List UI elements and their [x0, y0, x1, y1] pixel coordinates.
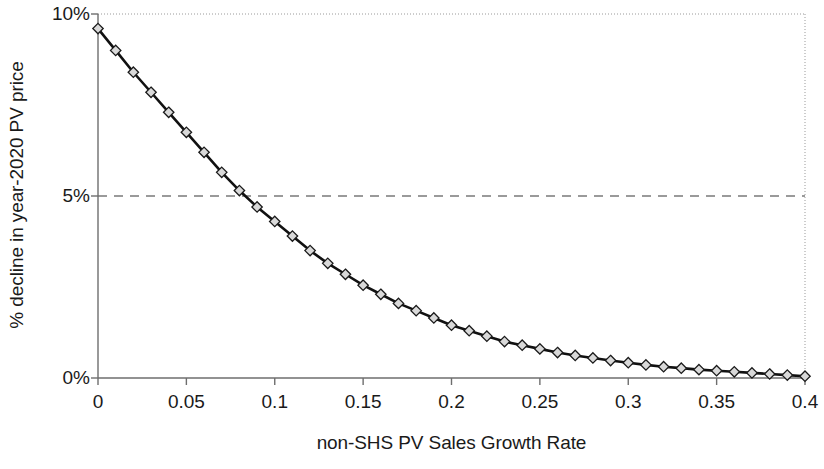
data-point-marker: [552, 347, 562, 357]
data-series-markers: [93, 23, 810, 381]
data-point-marker: [676, 363, 686, 373]
x-tick-label: 0.4: [765, 392, 824, 411]
data-point-marker: [641, 360, 651, 370]
x-tick-label: 0: [58, 392, 138, 411]
data-point-marker: [694, 364, 704, 374]
chart-container: % decline in year-2020 PV price 0%5%10% …: [0, 0, 824, 469]
y-tick-label: 5%: [6, 186, 90, 205]
data-point-marker: [393, 298, 403, 308]
data-point-marker: [747, 368, 757, 378]
data-point-marker: [376, 289, 386, 299]
data-point-marker: [711, 366, 721, 376]
x-tick-label: 0.15: [323, 392, 403, 411]
y-axis-ticks: [91, 14, 98, 378]
x-tick-label: 0.1: [235, 392, 315, 411]
plot-area: [98, 14, 805, 378]
data-point-marker: [570, 350, 580, 360]
y-tick-label: 0%: [6, 368, 90, 387]
data-point-marker: [729, 367, 739, 377]
x-tick-label: 0.3: [588, 392, 668, 411]
x-tick-label: 0.35: [677, 392, 757, 411]
line-chart-svg: [98, 14, 805, 378]
data-point-marker: [535, 344, 545, 354]
x-tick-label: 0.2: [412, 392, 492, 411]
x-tick-label: 0.25: [500, 392, 580, 411]
x-axis-title: non-SHS PV Sales Growth Rate: [98, 432, 805, 454]
data-point-marker: [800, 371, 810, 381]
y-tick-label: 10%: [6, 4, 90, 23]
data-point-marker: [588, 353, 598, 363]
data-point-marker: [411, 305, 421, 315]
x-axis-tick-labels: 00.050.10.150.20.250.30.350.4: [0, 392, 824, 422]
data-point-marker: [429, 313, 439, 323]
data-point-marker: [446, 320, 456, 330]
data-point-marker: [482, 331, 492, 341]
data-point-marker: [499, 336, 509, 346]
data-point-marker: [605, 355, 615, 365]
data-point-marker: [782, 370, 792, 380]
x-axis-ticks: [98, 378, 805, 385]
data-point-marker: [623, 358, 633, 368]
data-point-marker: [658, 362, 668, 372]
x-tick-label: 0.05: [146, 392, 226, 411]
data-point-marker: [464, 325, 474, 335]
data-point-marker: [517, 340, 527, 350]
